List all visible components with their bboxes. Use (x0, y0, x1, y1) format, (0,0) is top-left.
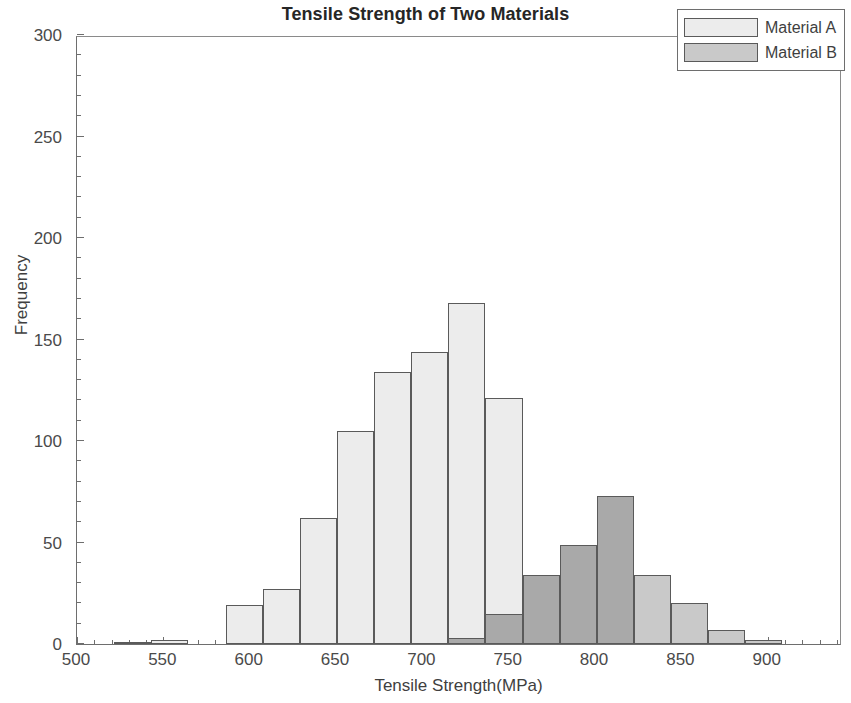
y-tick-mark-minor (77, 176, 81, 177)
x-tick-label: 650 (295, 650, 375, 670)
y-tick-mark-minor (77, 196, 81, 197)
x-axis-label: Tensile Strength(MPa) (76, 676, 841, 696)
y-tick-mark-minor (77, 521, 81, 522)
histogram-bar (151, 640, 188, 644)
x-tick-mark-minor (94, 640, 95, 644)
x-tick-label: 900 (727, 650, 807, 670)
y-tick-mark (77, 643, 84, 644)
histogram-bar (114, 642, 151, 644)
x-tick-label: 750 (468, 650, 548, 670)
histogram-bar (745, 640, 782, 644)
histogram-bar (597, 496, 634, 644)
y-tick-label: 300 (0, 26, 62, 46)
y-tick-mark-minor (77, 602, 81, 603)
y-tick-mark-minor (77, 562, 81, 563)
histogram-bar (560, 545, 597, 644)
histogram-bar (634, 575, 671, 644)
y-tick-mark-minor (77, 75, 81, 76)
histogram-bar (448, 303, 485, 644)
histogram-bar (226, 605, 263, 644)
y-tick-mark-minor (77, 359, 81, 360)
y-tick-mark-minor (77, 481, 81, 482)
y-tick-mark-minor (77, 501, 81, 502)
histogram-bar (300, 518, 337, 644)
histogram-bar (485, 398, 522, 644)
x-tick-mark-minor (198, 640, 199, 644)
y-tick-label: 50 (0, 534, 62, 554)
y-tick-label: 100 (0, 432, 62, 452)
x-tick-mark-minor (802, 640, 803, 644)
x-tick-mark-minor (112, 640, 113, 644)
x-tick-mark (77, 637, 78, 644)
x-tick-mark-minor (215, 640, 216, 644)
y-tick-mark (77, 542, 84, 543)
legend-swatch-icon (684, 43, 758, 62)
y-tick-mark-minor (77, 420, 81, 421)
histogram-bar (411, 352, 448, 644)
legend-item: Material A (684, 15, 837, 40)
y-tick-mark (77, 339, 84, 340)
legend-swatch-icon (684, 18, 758, 37)
plot-area (76, 36, 841, 645)
y-tick-mark-minor (77, 54, 81, 55)
y-tick-mark-minor (77, 582, 81, 583)
histogram-figure: Tensile Strength of Two Materials 050100… (0, 0, 851, 703)
histogram-bar (708, 630, 745, 644)
x-tick-mark-minor (820, 640, 821, 644)
histogram-bar (337, 431, 374, 644)
y-tick-mark-minor (77, 278, 81, 279)
legend-label: Material A (765, 19, 836, 37)
y-tick-mark (77, 136, 84, 137)
y-tick-mark-minor (77, 156, 81, 157)
y-tick-mark-minor (77, 298, 81, 299)
y-tick-mark-minor (77, 318, 81, 319)
y-tick-mark-minor (77, 399, 81, 400)
y-tick-mark-minor (77, 95, 81, 96)
y-tick-mark-minor (77, 257, 81, 258)
y-tick-mark-minor (77, 460, 81, 461)
histogram-bar (374, 372, 411, 644)
histogram-bar (448, 638, 485, 644)
x-tick-label: 850 (640, 650, 720, 670)
y-tick-mark (77, 440, 84, 441)
x-tick-label: 700 (381, 650, 461, 670)
legend-label: Material B (765, 44, 837, 62)
x-tick-mark-minor (837, 640, 838, 644)
histogram-bar (671, 603, 708, 644)
bars-layer (77, 37, 840, 644)
histogram-bar (523, 575, 560, 644)
y-tick-mark-minor (77, 115, 81, 116)
y-axis-label: Frequency (12, 165, 32, 425)
y-tick-mark (77, 34, 84, 35)
y-tick-label: 250 (0, 128, 62, 148)
legend: Material AMaterial B (677, 9, 845, 71)
y-tick-mark (77, 237, 84, 238)
x-tick-mark-minor (785, 640, 786, 644)
y-tick-mark-minor (77, 623, 81, 624)
x-tick-label: 600 (209, 650, 289, 670)
x-tick-label: 550 (122, 650, 202, 670)
histogram-bar (263, 589, 300, 644)
y-tick-mark-minor (77, 379, 81, 380)
y-tick-mark-minor (77, 217, 81, 218)
histogram-bar (485, 614, 522, 644)
x-tick-label: 800 (554, 650, 634, 670)
x-tick-label: 500 (36, 650, 116, 670)
legend-item: Material B (684, 40, 837, 65)
